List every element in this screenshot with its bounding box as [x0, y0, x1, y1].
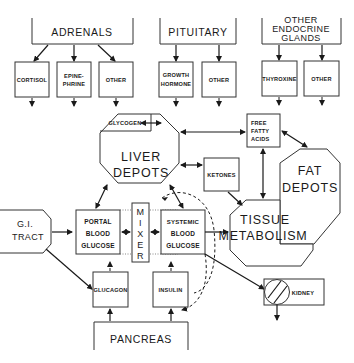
svg-text:DEPOTS: DEPOTS	[282, 181, 338, 195]
other-endocrine-box: OTHER ENDOCRINE GLANDS	[262, 15, 341, 44]
glucose-regulation-diagram: ADRENALS CORTISOL EPINE- PHRINE OTHER PI…	[0, 0, 354, 363]
adrenal-other-box: OTHER	[99, 62, 133, 97]
pituitary-other-box: OTHER	[202, 62, 236, 97]
svg-text:PORTAL: PORTAL	[84, 218, 111, 225]
gi-tract: G.I. TRACT	[0, 210, 51, 253]
svg-text:BLOOD: BLOOD	[171, 230, 196, 237]
svg-text:METABOLISM: METABOLISM	[218, 229, 307, 243]
svg-text:I: I	[139, 218, 142, 228]
portal-blood-glucose-box: PORTAL BLOOD GLUCOSE	[76, 210, 120, 254]
svg-text:FATTY: FATTY	[251, 128, 269, 134]
svg-text:GLUCOSE: GLUCOSE	[81, 242, 115, 249]
svg-text:FAT: FAT	[298, 164, 322, 178]
glycogen-label: GLYCOGEN	[108, 120, 141, 126]
free-fatty-acids-box: FREE FATTY ACIDS	[247, 114, 280, 147]
pituitary-box: PITUITARY	[160, 18, 236, 44]
svg-text:BLOOD: BLOOD	[86, 230, 111, 237]
svg-text:GLANDS: GLANDS	[281, 33, 320, 43]
insulin-box: INSULIN	[153, 272, 188, 307]
svg-text:LIVER: LIVER	[121, 150, 161, 164]
mixer-box: M I X E R	[132, 203, 149, 262]
epinephrine-box: EPINE- PHRINE	[57, 62, 91, 97]
systemic-blood-glucose-box: SYSTEMIC BLOOD GLUCOSE	[161, 210, 205, 254]
kidney-box: KIDNEY	[264, 279, 324, 305]
svg-text:GLUCAGON: GLUCAGON	[93, 287, 127, 293]
svg-text:THYROXINE: THYROXINE	[262, 76, 297, 82]
endocrine-other-box: OTHER	[304, 61, 339, 96]
svg-text:TISSUE: TISSUE	[240, 213, 290, 227]
svg-text:HORMONE: HORMONE	[161, 81, 192, 87]
svg-text:X: X	[137, 229, 143, 239]
ketones-box: KETONES	[204, 158, 239, 191]
svg-text:FREE: FREE	[251, 120, 267, 126]
svg-text:EPINE-: EPINE-	[64, 73, 84, 79]
svg-text:KIDNEY: KIDNEY	[292, 290, 314, 296]
svg-text:OTHER: OTHER	[311, 76, 332, 82]
pancreas-box: PANCREAS	[94, 322, 188, 350]
pituitary-label: PITUITARY	[168, 26, 227, 38]
svg-text:INSULIN: INSULIN	[159, 287, 183, 293]
svg-text:SYSTEMIC: SYSTEMIC	[167, 219, 200, 225]
growth-hormone-box: GROWTH HORMONE	[159, 62, 193, 97]
svg-text:M: M	[137, 207, 145, 217]
svg-text:DEPOTS: DEPOTS	[113, 166, 169, 180]
svg-text:R: R	[137, 251, 144, 261]
cortisol-label: CORTISOL	[17, 77, 48, 83]
cortisol-box: CORTISOL	[15, 62, 49, 97]
glucagon-box: GLUCAGON	[93, 272, 128, 307]
svg-text:GROWTH: GROWTH	[163, 72, 190, 78]
svg-text:GLUCOSE: GLUCOSE	[166, 242, 200, 249]
adrenals-box: ADRENALS	[32, 18, 133, 44]
adrenals-label: ADRENALS	[51, 26, 112, 38]
svg-text:OTHER: OTHER	[209, 77, 230, 83]
svg-text:G.I.: G.I.	[17, 219, 33, 229]
svg-text:KETONES: KETONES	[207, 172, 235, 178]
thyroxine-box: THYROXINE	[262, 61, 297, 96]
svg-text:OTHER: OTHER	[106, 77, 127, 83]
svg-text:TRACT: TRACT	[12, 232, 44, 242]
pancreas-label: PANCREAS	[110, 333, 172, 345]
svg-text:E: E	[137, 240, 143, 250]
liver-depots: GLYCOGEN LIVER DEPOTS	[100, 114, 179, 183]
svg-text:PHRINE: PHRINE	[63, 81, 85, 87]
svg-text:ACIDS: ACIDS	[251, 136, 269, 142]
